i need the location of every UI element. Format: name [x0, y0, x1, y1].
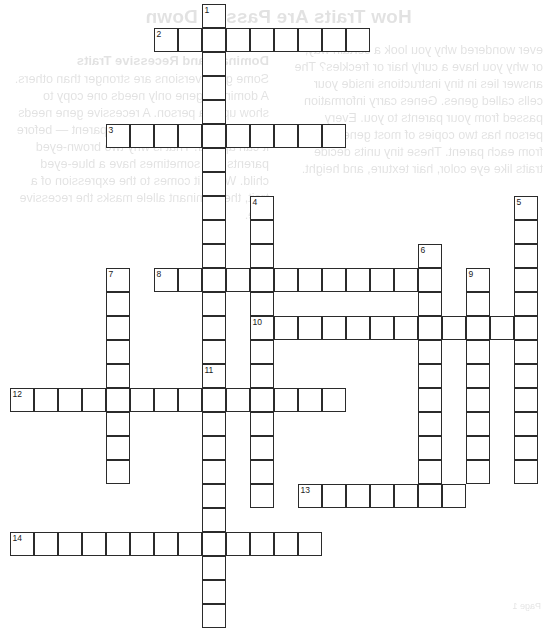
crossword-cell[interactable] — [514, 412, 538, 436]
crossword-cell[interactable] — [202, 268, 226, 292]
crossword-cell[interactable] — [178, 28, 202, 52]
crossword-cell[interactable] — [250, 484, 274, 508]
crossword-cell[interactable] — [514, 364, 538, 388]
crossword-cell[interactable] — [298, 268, 322, 292]
crossword-cell[interactable] — [250, 28, 274, 52]
crossword-cell[interactable] — [202, 580, 226, 604]
crossword-cell[interactable] — [202, 100, 226, 124]
crossword-cell[interactable] — [106, 364, 130, 388]
crossword-cell-start-8[interactable]: 8 — [154, 268, 178, 292]
crossword-cell[interactable] — [274, 124, 298, 148]
crossword-cell[interactable] — [226, 388, 250, 412]
crossword-cell[interactable] — [466, 436, 490, 460]
crossword-cell[interactable] — [202, 412, 226, 436]
crossword-cell[interactable] — [442, 316, 466, 340]
crossword-cell[interactable] — [466, 388, 490, 412]
crossword-cell[interactable] — [130, 532, 154, 556]
crossword-cell[interactable] — [202, 532, 226, 556]
crossword-cell[interactable] — [178, 532, 202, 556]
crossword-cell[interactable] — [418, 364, 442, 388]
crossword-cell[interactable] — [466, 412, 490, 436]
crossword-cell[interactable] — [250, 340, 274, 364]
crossword-cell[interactable] — [298, 124, 322, 148]
crossword-cell-start-6[interactable]: 6 — [418, 244, 442, 268]
crossword-cell[interactable] — [274, 532, 298, 556]
crossword-cell[interactable] — [226, 28, 250, 52]
crossword-cell[interactable] — [394, 268, 418, 292]
crossword-cell[interactable] — [202, 556, 226, 580]
crossword-cell[interactable] — [226, 268, 250, 292]
crossword-cell[interactable] — [178, 268, 202, 292]
crossword-cell[interactable] — [202, 436, 226, 460]
crossword-cell[interactable] — [178, 124, 202, 148]
crossword-cell[interactable] — [58, 388, 82, 412]
crossword-cell[interactable] — [202, 196, 226, 220]
crossword-cell[interactable] — [322, 388, 346, 412]
crossword-cell[interactable] — [298, 388, 322, 412]
crossword-cell-start-4[interactable]: 4 — [250, 196, 274, 220]
crossword-cell[interactable] — [226, 124, 250, 148]
crossword-cell[interactable] — [490, 316, 514, 340]
crossword-cell[interactable] — [418, 436, 442, 460]
crossword-cell[interactable] — [466, 460, 490, 484]
crossword-cell[interactable] — [226, 532, 250, 556]
crossword-cell[interactable] — [250, 292, 274, 316]
crossword-cell[interactable] — [418, 388, 442, 412]
crossword-cell[interactable] — [298, 316, 322, 340]
crossword-cell[interactable] — [514, 436, 538, 460]
crossword-cell[interactable] — [418, 340, 442, 364]
crossword-cell[interactable] — [346, 316, 370, 340]
crossword-cell[interactable] — [202, 604, 226, 628]
crossword-cell[interactable] — [346, 28, 370, 52]
crossword-cell[interactable] — [274, 28, 298, 52]
crossword-cell[interactable] — [514, 220, 538, 244]
crossword-cell[interactable] — [466, 364, 490, 388]
crossword-cell[interactable] — [106, 436, 130, 460]
crossword-cell[interactable] — [322, 124, 346, 148]
crossword-cell[interactable] — [274, 388, 298, 412]
crossword-cell[interactable] — [274, 268, 298, 292]
crossword-cell[interactable] — [178, 388, 202, 412]
crossword-cell[interactable] — [202, 28, 226, 52]
crossword-cell[interactable] — [202, 52, 226, 76]
crossword-cell[interactable] — [298, 28, 322, 52]
crossword-cell[interactable] — [82, 532, 106, 556]
crossword-cell[interactable] — [34, 388, 58, 412]
crossword-cell[interactable] — [370, 268, 394, 292]
crossword-cell[interactable] — [202, 316, 226, 340]
crossword-cell[interactable] — [466, 340, 490, 364]
crossword-cell[interactable] — [202, 460, 226, 484]
crossword-cell[interactable] — [250, 460, 274, 484]
crossword-cell-start-13[interactable]: 13 — [298, 484, 322, 508]
crossword-cell[interactable] — [514, 244, 538, 268]
crossword-cell-start-2[interactable]: 2 — [154, 28, 178, 52]
crossword-cell[interactable] — [250, 268, 274, 292]
crossword-cell-start-12[interactable]: 12 — [10, 388, 34, 412]
crossword-cell[interactable] — [250, 220, 274, 244]
crossword-cell-start-10[interactable]: 10 — [250, 316, 274, 340]
crossword-cell[interactable] — [106, 292, 130, 316]
crossword-cell[interactable] — [106, 388, 130, 412]
crossword-cell[interactable] — [394, 316, 418, 340]
crossword-cell[interactable] — [202, 244, 226, 268]
crossword-cell[interactable] — [322, 268, 346, 292]
crossword-cell[interactable] — [34, 532, 58, 556]
crossword-cell[interactable] — [418, 460, 442, 484]
crossword-cell[interactable] — [514, 292, 538, 316]
crossword-cell[interactable] — [250, 532, 274, 556]
crossword-cell[interactable] — [418, 292, 442, 316]
crossword-cell[interactable] — [106, 412, 130, 436]
crossword-cell[interactable] — [346, 484, 370, 508]
crossword-cell[interactable] — [442, 484, 466, 508]
crossword-cell[interactable] — [130, 124, 154, 148]
crossword-cell[interactable] — [466, 316, 490, 340]
crossword-cell[interactable] — [202, 340, 226, 364]
crossword-cell[interactable] — [322, 484, 346, 508]
crossword-cell[interactable] — [106, 460, 130, 484]
crossword-cell[interactable] — [202, 148, 226, 172]
crossword-cell[interactable] — [202, 76, 226, 100]
crossword-cell[interactable] — [250, 412, 274, 436]
crossword-cell[interactable] — [106, 340, 130, 364]
crossword-cell[interactable] — [82, 388, 106, 412]
crossword-cell[interactable] — [250, 244, 274, 268]
